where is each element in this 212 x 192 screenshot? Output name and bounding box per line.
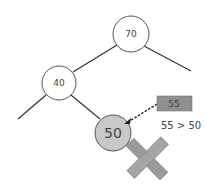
edge-40-50 bbox=[71, 95, 100, 119]
compare-arrow bbox=[124, 104, 157, 124]
node-label: 40 bbox=[53, 78, 65, 88]
new-key-label: 55 bbox=[168, 99, 179, 109]
bst-insert-diagram: 70 40 50 55 55 > 50 bbox=[0, 0, 212, 192]
new-key-box: 55 bbox=[157, 96, 192, 111]
edge-70-right bbox=[144, 46, 191, 71]
comparison-text: 55 > 50 bbox=[161, 120, 201, 131]
edge-40-left bbox=[18, 95, 46, 119]
x-mark-icon bbox=[126, 137, 168, 180]
node-label: 70 bbox=[125, 29, 137, 39]
node-label: 50 bbox=[104, 125, 122, 141]
tree-node-70: 70 bbox=[113, 16, 149, 52]
tree-node-40: 40 bbox=[42, 66, 76, 100]
tree-node-50: 50 bbox=[95, 115, 131, 151]
edge-70-40 bbox=[73, 45, 117, 72]
